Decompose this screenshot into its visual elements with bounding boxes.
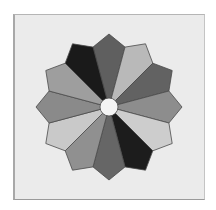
dresden-plate-diagram (0, 0, 216, 210)
center-circle (100, 98, 118, 116)
